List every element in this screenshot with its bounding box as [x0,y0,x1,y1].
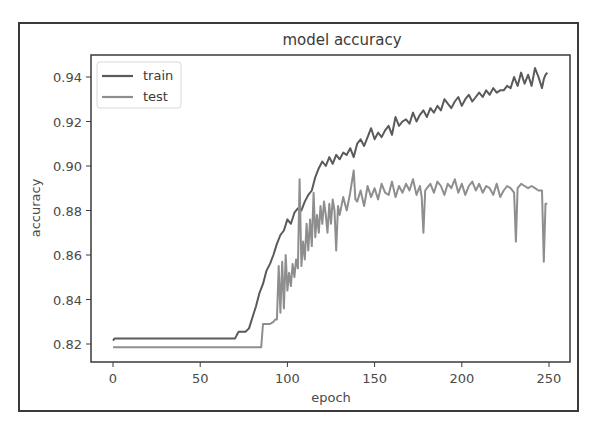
y-tick-label: 0.92 [53,115,82,130]
x-tick-label: 100 [275,371,300,386]
x-tick-label: 200 [449,371,474,386]
y-tick-label: 0.90 [53,159,82,174]
y-tick-label: 0.88 [53,204,82,219]
legend-label-test: test [143,89,168,104]
x-tick-label: 250 [537,371,562,386]
x-tick-label: 0 [109,371,117,386]
legend-label-train: train [143,68,173,83]
x-axis: 050100150200250 [109,362,562,386]
x-axis-label: epoch [311,390,351,405]
y-tick-label: 0.94 [53,70,82,85]
series-lines [113,68,547,347]
line-chart: model accuracy 050100150200250 0.820.840… [0,0,599,440]
y-tick-label: 0.84 [53,293,82,308]
x-tick-label: 50 [192,371,209,386]
chart-title: model accuracy [282,31,401,49]
series-line-test [113,170,547,347]
y-tick-label: 0.86 [53,248,82,263]
x-tick-label: 150 [362,371,387,386]
y-axis-label: accuracy [28,178,43,237]
y-axis: 0.820.840.860.880.900.920.94 [53,70,91,352]
y-tick-label: 0.82 [53,337,82,352]
legend: train test [97,62,181,108]
